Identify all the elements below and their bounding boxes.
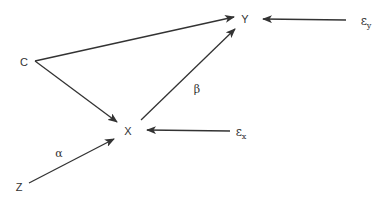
error-subscript-y: y [367,21,372,30]
error-term-x: εx [236,126,247,141]
node-y: Y [241,14,248,25]
node-x: X [124,126,131,137]
coefficient-alpha: α [55,148,62,159]
error-term-y: εy [361,15,372,30]
node-z: Z [16,182,23,193]
edge-ex-to-x [147,130,230,131]
edge-c-to-y [35,17,234,61]
causal-diagram: C Y X Z β α εy εx [0,0,384,200]
error-subscript-x: x [242,132,247,141]
node-c: C [20,57,28,68]
edge-c-to-x [35,61,117,122]
edges-layer [0,0,384,200]
edge-z-to-x [29,139,114,183]
edge-ey-to-y [263,19,346,20]
edge-x-to-y [141,29,235,120]
coefficient-beta: β [194,84,200,95]
